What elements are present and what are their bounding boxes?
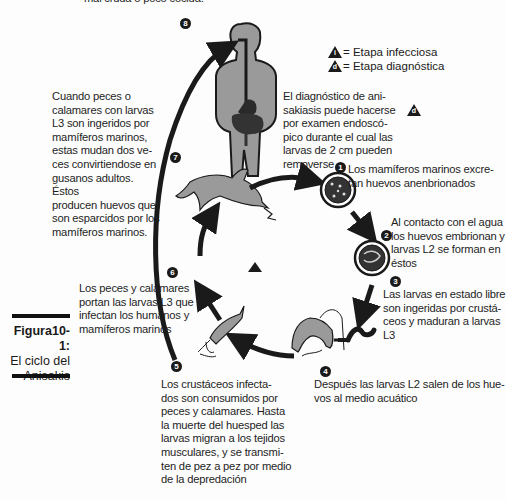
- crustacean-icon: [292, 310, 344, 356]
- step-6-text: Los peces y calamares portan las larvas …: [79, 282, 199, 336]
- legend-diagnostic-label: = Etapa diagnóstica: [343, 60, 444, 72]
- step-5-text: Los crustáceos infecta- dos son consumid…: [161, 378, 301, 487]
- diagnosis-text: El diagnóstico de ani- sakiasis puede ha…: [283, 90, 408, 172]
- step-6-number: 6: [167, 267, 178, 278]
- dolphin-icon: [176, 169, 276, 220]
- step-2-text: Al contacto con el agua los huevos embri…: [391, 216, 506, 270]
- egg-embryonated-icon: [355, 241, 389, 275]
- step-8-number: 8: [180, 18, 191, 29]
- caption-label: Figura10-1:: [14, 324, 70, 353]
- step-1-text: Los mamíferos marinos excre- tan huevos …: [348, 163, 506, 190]
- caption-rule-bottom: [12, 374, 70, 378]
- step-5-number: 5: [171, 361, 182, 372]
- step-4-number: 4: [320, 366, 331, 377]
- legend-infective: i = Etapa infecciosa: [328, 46, 437, 58]
- diagnostic-marker-icon: d: [407, 104, 421, 116]
- infective-stage-triangle-icon: [248, 262, 262, 272]
- legend-infective-label: = Etapa infecciosa: [343, 46, 437, 58]
- caption-line-1: El ciclo del: [10, 354, 70, 368]
- step-7-number: 7: [170, 152, 181, 163]
- step-3-number: 3: [390, 276, 401, 287]
- top-cut-text: mal cruda o poco cocida.: [84, 0, 204, 6]
- diagnostic-triangle-icon: d: [328, 60, 342, 72]
- step-7-text: Cuando peces o calamares con larvas L3 s…: [52, 90, 162, 240]
- step-3-text: Las larvas en estado libre son ingeridas…: [383, 288, 506, 342]
- fish-squid-icon: [198, 306, 244, 357]
- legend-diagnostic: d = Etapa diagnóstica: [328, 60, 444, 72]
- infective-triangle-icon: i: [328, 46, 342, 58]
- caption-rule-top: [12, 314, 70, 318]
- larva-icon: [348, 329, 374, 340]
- step-4-text: Después las larvas L2 salen de los hue- …: [314, 378, 506, 405]
